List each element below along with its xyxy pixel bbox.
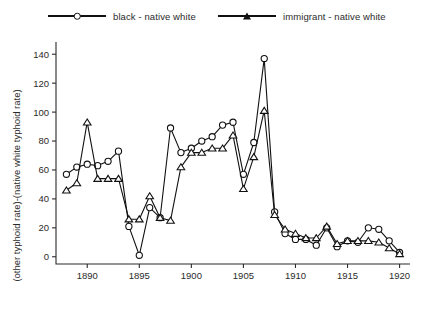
- legend-line-sample: [48, 15, 106, 17]
- circle-marker-icon: [74, 13, 81, 20]
- chart-legend: black - native white immigrant - native …: [0, 8, 422, 28]
- legend-entry-immigrant-native-white: immigrant - native white: [218, 8, 386, 24]
- chart-series: [0, 30, 422, 318]
- typhoid-rate-chart: black - native white immigrant - native …: [0, 0, 422, 318]
- triangle-marker-icon: [243, 13, 251, 20]
- legend-entry-black-native-white: black - native white: [48, 8, 196, 24]
- plot-area: 0204060801001201401890189519001905191019…: [0, 30, 422, 318]
- y-axis-label: (other typhoid rate)-(native white typho…: [11, 76, 22, 296]
- legend-line-sample: [218, 15, 276, 17]
- legend-label: immigrant - native white: [283, 11, 386, 22]
- legend-label: black - native white: [113, 11, 196, 22]
